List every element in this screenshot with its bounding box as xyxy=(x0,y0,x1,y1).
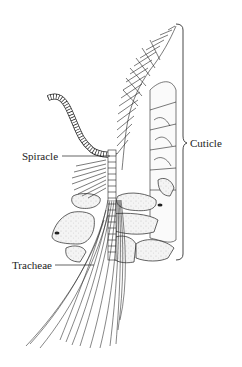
cuticle-bracket xyxy=(176,24,187,260)
label-cuticle: Cuticle xyxy=(190,137,222,149)
nucleus xyxy=(55,232,60,235)
cuticle-diagram xyxy=(0,0,242,367)
tracheal-tube xyxy=(48,97,116,156)
nucleus xyxy=(158,204,163,207)
spiracle-bristles xyxy=(72,160,106,198)
label-spiracle: Spiracle xyxy=(22,150,58,162)
label-tracheae: Tracheae xyxy=(12,259,52,271)
